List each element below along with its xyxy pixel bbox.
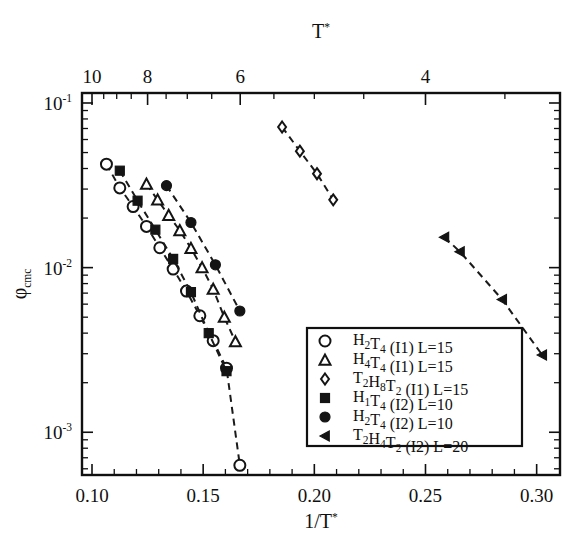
data-point — [439, 232, 448, 242]
data-point — [222, 367, 231, 376]
legend-marker — [321, 394, 330, 403]
data-point — [497, 295, 506, 305]
svg-text:T*: T* — [312, 20, 330, 42]
data-series — [278, 121, 337, 205]
top-tick-label: 4 — [421, 66, 431, 87]
data-point — [101, 159, 112, 170]
series-line — [166, 186, 239, 311]
y-tick-label: 10-3 — [43, 421, 72, 443]
legend: H2T4 (I1) L=15H4T4 (I1) L=15T2H8T2 (I1) … — [307, 328, 522, 456]
bottom-axis-title: 1/T* — [304, 510, 338, 532]
svg-text:φcmc: φcmc — [8, 269, 33, 300]
data-point — [114, 182, 125, 193]
data-point — [186, 288, 195, 297]
y-tick-label: 10-1 — [43, 92, 72, 114]
data-point — [163, 210, 174, 220]
data-point — [186, 217, 196, 227]
y-axis-title: φcmc — [8, 269, 33, 300]
series-line — [282, 127, 333, 200]
legend-marker — [320, 412, 330, 422]
figure-container: 0.100.150.200.250.30 10864 10-110-210-3 … — [0, 0, 583, 544]
data-point — [235, 306, 245, 316]
data-point — [185, 243, 196, 253]
data-point — [151, 225, 160, 234]
series-line — [106, 164, 239, 465]
data-point — [230, 336, 241, 346]
top-tick-label: 6 — [235, 66, 245, 87]
top-axis-title: T* — [312, 20, 330, 42]
right-axis-ticks — [549, 103, 560, 469]
data-point — [219, 312, 230, 322]
top-axis-ticks — [92, 93, 505, 105]
x-tick-label: 0.20 — [298, 485, 331, 506]
x-tick-label: 0.30 — [520, 485, 553, 506]
top-tick-label: 8 — [143, 66, 153, 87]
left-axis-ticklabels: 10-110-210-3 — [43, 92, 72, 443]
top-tick-label: 10 — [83, 66, 102, 87]
bottom-axis-ticklabels: 0.100.150.200.250.30 — [75, 485, 553, 506]
data-point — [161, 181, 171, 191]
legend-marker — [320, 336, 331, 347]
y-tick-label: 10-2 — [43, 257, 72, 279]
svg-text:1/T*: 1/T* — [304, 510, 338, 532]
x-tick-label: 0.25 — [409, 485, 442, 506]
data-point — [133, 196, 142, 205]
data-series — [141, 179, 241, 347]
data-point — [208, 284, 219, 294]
data-point — [210, 260, 220, 270]
data-point — [141, 179, 152, 189]
data-point — [204, 329, 213, 338]
data-point — [115, 166, 124, 175]
chart-svg: 0.100.150.200.250.30 10864 10-110-210-3 … — [0, 0, 583, 544]
left-axis-ticks — [82, 103, 93, 469]
data-point — [234, 460, 245, 471]
top-axis-ticklabels: 10864 — [83, 66, 431, 87]
data-point — [169, 254, 178, 263]
x-tick-label: 0.10 — [75, 485, 108, 506]
data-series — [161, 181, 244, 316]
bottom-axis-ticks — [92, 464, 537, 475]
data-point — [197, 262, 208, 272]
x-tick-label: 0.15 — [187, 485, 220, 506]
